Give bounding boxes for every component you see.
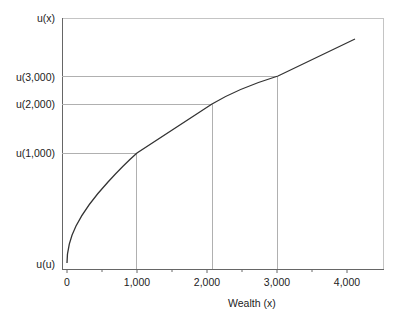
y-label-u3000: u(3,000) xyxy=(16,71,55,83)
utility-curve xyxy=(67,39,355,263)
guide-2000 xyxy=(62,105,213,270)
x-tick-2000: 2,000 xyxy=(194,276,220,288)
x-tick-3000: 3,000 xyxy=(264,276,290,288)
y-label-uu: u(u) xyxy=(36,258,55,270)
y-label-ux: u(x) xyxy=(37,12,55,24)
plot-frame xyxy=(63,19,384,270)
x-tick-4000: 4,000 xyxy=(334,276,360,288)
x-tick-0: 0 xyxy=(64,276,70,288)
x-tick-1000: 1,000 xyxy=(124,276,150,288)
guide-1000 xyxy=(62,154,137,270)
reference-guides xyxy=(62,77,278,270)
guide-3000 xyxy=(62,77,278,270)
y-label-u1000: u(1,000) xyxy=(16,147,55,159)
x-axis-title: Wealth (x) xyxy=(228,297,276,309)
y-label-u2000: u(2,000) xyxy=(16,98,55,110)
